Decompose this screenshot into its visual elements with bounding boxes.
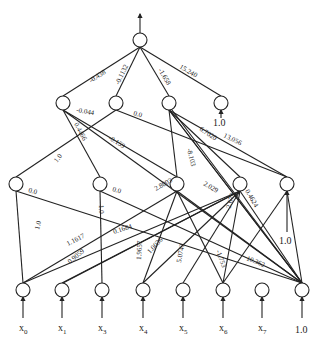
weight-label: -0.159 — [107, 134, 127, 151]
input-label-bias: 1.0 — [295, 324, 308, 335]
weight-label: -2.673 — [224, 191, 237, 211]
bias-label-l2: 1.0 — [213, 117, 226, 128]
weight-label: 1.9657 — [135, 240, 144, 260]
weight-label: -0.438 — [88, 68, 108, 85]
weight-label: -8.103 — [185, 148, 197, 168]
weight-label: -0.1132 — [114, 63, 131, 86]
weight-label: -0.044 — [76, 106, 96, 117]
weight-label: 0.9059 — [66, 247, 86, 266]
weight-label: 0.4624 — [243, 188, 260, 209]
input-label-x1: x1 — [58, 322, 67, 336]
input-label-x7: x7 — [258, 322, 267, 336]
input-label-x6: x6 — [219, 322, 228, 336]
neural-network-diagram: -0.438 -0.1132 -1.658 15.240 -0.044 0.44… — [0, 0, 328, 348]
weight-label: 2.029 — [202, 180, 220, 195]
network-canvas: -0.438 -0.1132 -1.658 15.240 -0.044 0.44… — [0, 0, 328, 348]
weight-label: 1.0 — [33, 220, 43, 231]
weight-label: -1.753 — [214, 249, 228, 269]
weight-label: 10.362 — [245, 254, 266, 269]
weight-label: 0.0 — [132, 109, 143, 119]
input-nodes — [16, 283, 309, 297]
input-label-x4: x4 — [139, 322, 148, 336]
bias-label-l1: 1.0 — [279, 235, 292, 246]
weight-label: 5.0743 — [175, 243, 186, 264]
weight-label: 1.0 — [97, 205, 105, 215]
edges-l1-l2 — [16, 110, 302, 283]
weight-label: 1.1617 — [65, 232, 86, 248]
input-label-x0: x0 — [19, 322, 28, 336]
weight-label: 1.0 — [52, 152, 64, 164]
input-labels: x0 x1 x3 x4 x5 x6 x7 1.0 — [19, 322, 308, 336]
weight-label: 15.240 — [178, 63, 199, 80]
weight-label: 0.0 — [111, 185, 122, 195]
output-node — [133, 33, 147, 47]
weight-label: 0.1684 — [112, 222, 133, 236]
input-label-x5: x5 — [179, 322, 188, 336]
weight-label: 13.056 — [222, 132, 243, 148]
weight-label: 2.8003 — [153, 176, 174, 193]
input-label-x3: x3 — [98, 322, 107, 336]
input-arrows — [23, 297, 302, 318]
weight-label: -1.658 — [156, 67, 172, 87]
